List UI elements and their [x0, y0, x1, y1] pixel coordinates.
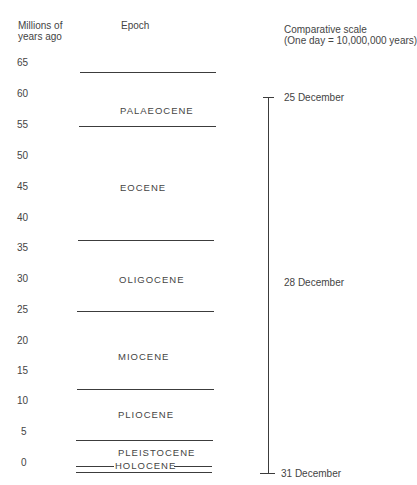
tick-5: 5	[21, 426, 27, 437]
comparative-scale-note: (One day = 10,000,000 years)	[284, 35, 417, 46]
epoch-label-holocene: HOLOCENE	[115, 460, 176, 471]
scale-bar-bottom-cap	[260, 473, 275, 474]
comparative-scale-header: Comparative scale (One day = 10,000,000 …	[284, 24, 417, 46]
boundary-line-37	[78, 240, 214, 241]
boundary-line-65	[80, 72, 216, 73]
tick-30: 30	[17, 273, 28, 284]
scale-label-31-december: 31 December	[281, 468, 341, 479]
tick-25: 25	[17, 304, 28, 315]
boundary-line-12	[77, 389, 214, 390]
boundary-line-holocene-right	[174, 466, 212, 467]
boundary-line-0	[76, 472, 212, 473]
tick-0: 0	[21, 457, 27, 468]
scale-label-25-december: 25 December	[284, 92, 344, 103]
boundary-line-25	[77, 311, 214, 312]
scale-label-28-december: 28 December	[284, 277, 344, 288]
epoch-label-palaeocene: PALAEOCENE	[120, 105, 194, 116]
epoch-label-eocene: EOCENE	[120, 182, 166, 193]
epoch-label-pleistocene: PLEISTOCENE	[118, 447, 195, 458]
y-axis-title-line2: years ago	[18, 31, 62, 42]
boundary-line-holocene-left	[76, 466, 114, 467]
tick-10: 10	[17, 395, 28, 406]
tick-60: 60	[17, 88, 28, 99]
tick-55: 55	[17, 119, 28, 130]
tick-50: 50	[17, 150, 28, 161]
boundary-line-55	[79, 126, 216, 127]
tick-65: 65	[17, 57, 28, 68]
epoch-header: Epoch	[121, 20, 149, 31]
tick-45: 45	[17, 181, 28, 192]
epoch-label-oligocene: OLIGOCENE	[119, 274, 185, 285]
boundary-line-4	[76, 440, 213, 441]
y-axis-title: Millions of years ago	[18, 20, 62, 42]
tick-20: 20	[17, 335, 28, 346]
tick-15: 15	[17, 365, 28, 376]
epoch-label-pliocene: PLIOCENE	[118, 409, 174, 420]
comparative-scale-title: Comparative scale	[284, 24, 417, 35]
epoch-label-miocene: MIOCENE	[118, 351, 169, 362]
tick-40: 40	[17, 212, 28, 223]
scale-bar	[268, 97, 269, 473]
y-axis-title-line1: Millions of	[18, 20, 62, 31]
tick-35: 35	[17, 242, 28, 253]
